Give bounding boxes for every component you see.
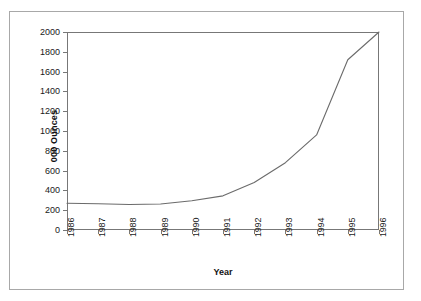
chart-figure: 0200400600800100012001400160018002000 19… (9, 11, 404, 290)
y-tick-label: 0 (55, 226, 60, 235)
plot-area: 0200400600800100012001400160018002000 19… (67, 32, 379, 230)
x-axis-title: Year (67, 267, 379, 277)
y-tick-label: 1800 (40, 47, 60, 56)
y-tick-label: 2000 (40, 28, 60, 37)
y-tick-label: 200 (45, 206, 60, 215)
data-series-line (67, 32, 379, 230)
y-tick-label: 600 (45, 166, 60, 175)
x-tick-label: 1996 (379, 218, 388, 237)
y-tick-label: 1400 (40, 87, 60, 96)
y-tick-label: 1600 (40, 67, 60, 76)
y-tick-label: 400 (45, 186, 60, 195)
y-axis-title: 000 Ounces (49, 110, 59, 163)
